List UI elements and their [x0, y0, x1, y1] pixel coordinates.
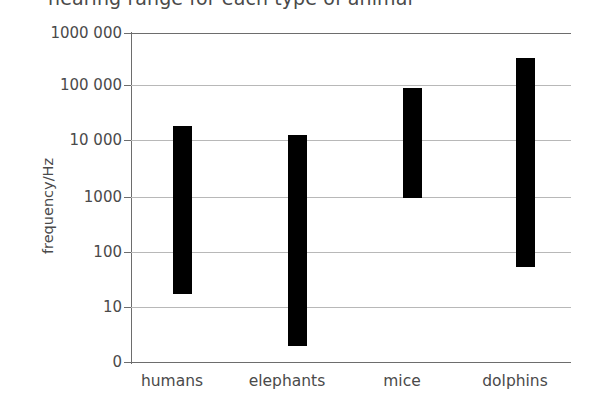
bar-humans	[173, 126, 192, 294]
x-tick-label-mice: mice	[383, 372, 420, 390]
gridline-100000	[131, 85, 571, 86]
gridline-10	[131, 307, 571, 308]
x-tick-label-elephants: elephants	[249, 372, 326, 390]
y-tick-label-0: 0	[12, 353, 122, 371]
plot-area	[131, 33, 571, 363]
y-axis-tick-labels: 1000 000 100 000 10 000 1000 100 10 0	[10, 0, 122, 413]
y-tick-label-100: 100	[12, 243, 122, 261]
bar-mice	[403, 88, 422, 198]
y-tick-label-100000: 100 000	[12, 76, 122, 94]
bar-dolphins	[516, 58, 535, 267]
y-tick-label-1000: 1000	[12, 188, 122, 206]
gridline-1000	[131, 197, 571, 198]
y-tick-label-10000: 10 000	[12, 131, 122, 149]
y-tick-label-1000000: 1000 000	[12, 24, 122, 42]
gridline-10000	[131, 140, 571, 141]
gridline-100	[131, 252, 571, 253]
chart-figure: hearing range for each type of animal fr…	[0, 0, 590, 413]
bar-elephants	[288, 135, 307, 347]
y-tick-label-10: 10	[12, 298, 122, 316]
x-tick-label-dolphins: dolphins	[482, 372, 548, 390]
gridline-1000000	[131, 33, 571, 34]
x-tick-label-humans: humans	[141, 372, 203, 390]
x-axis-tick-labels: humans elephants mice dolphins	[131, 372, 571, 400]
